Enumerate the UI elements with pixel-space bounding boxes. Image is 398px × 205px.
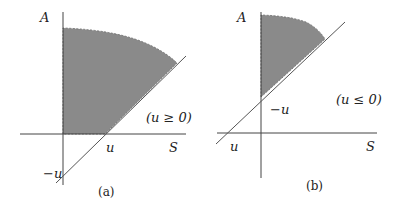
caption-b: (b) bbox=[306, 179, 323, 193]
panel-b: A S u −u (u ≤ 0) (b) bbox=[216, 10, 382, 193]
caption-a: (a) bbox=[98, 185, 115, 199]
y-intercept-label-b: −u bbox=[270, 102, 289, 117]
condition-label-a: (u ≥ 0) bbox=[146, 110, 192, 125]
panel-a: A S u −u (u ≥ 0) (a) bbox=[20, 10, 192, 199]
x-intercept-label-b: u bbox=[230, 139, 238, 154]
condition-label-b: (u ≤ 0) bbox=[336, 92, 382, 107]
diagram-canvas: A S u −u (u ≥ 0) (a) A S u −u (u ≤ 0) (b… bbox=[0, 0, 398, 205]
axis-y-label-b: A bbox=[236, 10, 246, 25]
axis-x-label-b: S bbox=[366, 139, 375, 154]
axis-x-label-a: S bbox=[169, 140, 178, 155]
shaded-region-b bbox=[261, 15, 325, 97]
y-intercept-label-a: −u bbox=[43, 166, 62, 181]
axis-y-label-a: A bbox=[39, 10, 49, 25]
x-intercept-label-a: u bbox=[106, 140, 114, 155]
